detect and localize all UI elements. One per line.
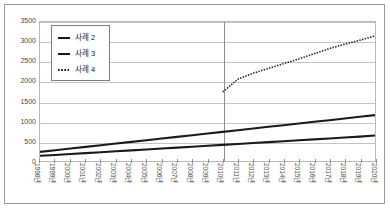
series-line-3 [223, 36, 375, 92]
x-axis-tick-label: 2008년 [186, 163, 196, 183]
figure-frame: 0500100015002000250030003500 1998년1999년2… [4, 4, 385, 204]
y-axis-tick-label: 1500 [6, 98, 36, 105]
gridline [40, 103, 375, 104]
x-axis-tick-label: 2016년 [308, 163, 318, 183]
y-axis-tick-label: 500 [6, 138, 36, 145]
y-axis-tick-label: 3500 [6, 17, 36, 24]
x-axis-tick-label: 2002년 [94, 163, 104, 183]
x-axis-tick-label: 2015년 [293, 163, 303, 183]
x-axis-tick-label: 2012년 [247, 163, 257, 183]
x-axis-tick-label: 2005년 [140, 163, 150, 183]
x-axis-tick-label: 1999년 [48, 163, 58, 183]
series-line-2 [40, 136, 375, 156]
x-axis-tick-label: 2014년 [278, 163, 288, 183]
y-axis-tick-label: 2500 [6, 57, 36, 64]
y-axis-tick-label: 0 [6, 158, 36, 165]
legend-label: 사례 2 [75, 34, 95, 42]
x-axis-tick-label: 2020년 [370, 163, 380, 183]
chart-legend: 사례 2 사례 3 사례 4 [51, 25, 110, 81]
gridline [40, 82, 375, 83]
gridline [40, 123, 375, 124]
legend-label: 사례 3 [75, 50, 95, 58]
x-axis-tick-label: 2000년 [63, 163, 73, 183]
x-axis-tick-label: 2001년 [78, 163, 88, 183]
forecast-divider-line [224, 22, 225, 161]
dotted-line-swatch-icon [57, 67, 71, 74]
y-axis-tick-labels: 0500100015002000250030003500 [5, 21, 36, 162]
series-line-1 [40, 115, 375, 152]
x-axis-tick-label: 2003년 [109, 163, 119, 183]
x-axis-tick-label: 2013년 [262, 163, 272, 183]
x-axis-tick-label: 2010년 [216, 163, 226, 183]
x-axis-tick-label: 2018년 [339, 163, 349, 183]
x-axis-tick-label: 2006년 [155, 163, 165, 183]
gridline [40, 143, 375, 144]
chart-screenshot: 0500100015002000250030003500 1998년1999년2… [0, 0, 390, 209]
legend-label: 사례 4 [75, 66, 95, 74]
y-axis-tick-label: 1000 [6, 118, 36, 125]
legend-item-case-3: 사례 3 [57, 46, 109, 62]
x-axis-tick-label: 2019년 [354, 163, 364, 183]
x-axis-tick-label: 2004년 [124, 163, 134, 183]
solid-line-swatch-icon [57, 51, 71, 58]
x-axis-tick-label: 2011년 [232, 163, 242, 183]
legend-item-case-4: 사례 4 [57, 62, 109, 78]
x-axis-tick-label: 2007년 [170, 163, 180, 183]
legend-item-case-2: 사례 2 [57, 30, 109, 46]
x-axis-tick-label: 2009년 [201, 163, 211, 183]
x-axis-tick-label: 1998년 [33, 163, 43, 183]
gridline [40, 22, 375, 23]
solid-line-swatch-icon [57, 35, 71, 42]
x-axis-tick-labels: 1998년1999년2000년2001년2002년2003년2004년2005년… [39, 163, 376, 209]
y-axis-tick-label: 2000 [6, 77, 36, 84]
x-axis-tick-label: 2017년 [324, 163, 334, 183]
y-axis-tick-label: 3000 [6, 37, 36, 44]
